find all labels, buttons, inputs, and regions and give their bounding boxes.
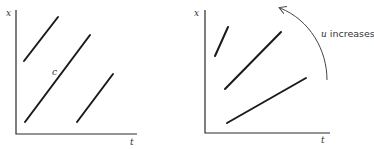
characteristic-line [225,32,281,89]
left-panel: x t c [6,8,137,147]
characteristic-line [215,27,228,56]
increase-arrow-icon [280,8,327,80]
right-y-axis-label: x [194,8,199,18]
right-panel: x t uincreases [194,8,374,145]
right-axes [205,10,330,133]
right-x-axis-label: t [321,135,325,145]
characteristic-line [227,78,306,123]
left-x-axis-label: t [130,137,134,147]
characteristic-line [77,74,113,122]
curve-label-c: c [52,67,57,77]
left-y-axis-label: x [6,8,11,18]
characteristic-line [24,17,58,61]
u-increases-annotation: uincreases [321,28,374,39]
characteristics-diagram: x t c x t uincreases [0,0,374,149]
left-axes [16,10,137,134]
